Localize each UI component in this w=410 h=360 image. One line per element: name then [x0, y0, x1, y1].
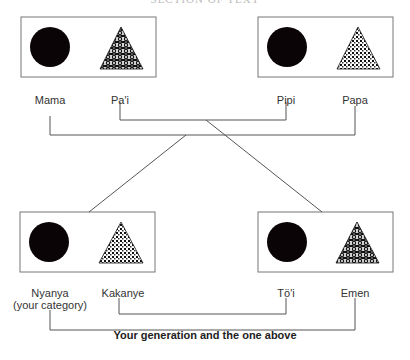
- label-emen: Emen: [335, 287, 375, 300]
- diagram-caption: Your generation and the one above: [0, 329, 410, 341]
- circle-icon: [267, 222, 307, 262]
- label-pai: Pa'i: [104, 94, 136, 107]
- label-mama: Mama: [30, 94, 70, 107]
- label-papa: Papa: [335, 94, 375, 107]
- circle-icon: [267, 27, 307, 67]
- box-bottom-left: [20, 212, 155, 272]
- box-bottom-right: [258, 212, 393, 272]
- circle-icon: [29, 222, 69, 262]
- label-pipi: Pipi: [270, 94, 302, 107]
- label-kakanye: Kakanye: [95, 287, 151, 300]
- box-top-left: [21, 17, 156, 77]
- top-connectors: [50, 102, 355, 212]
- box-top-right: [258, 17, 393, 77]
- label-toi: Tö'i: [270, 287, 302, 300]
- circle-icon: [30, 27, 70, 67]
- label-nyanya-note: (your category): [0, 299, 100, 312]
